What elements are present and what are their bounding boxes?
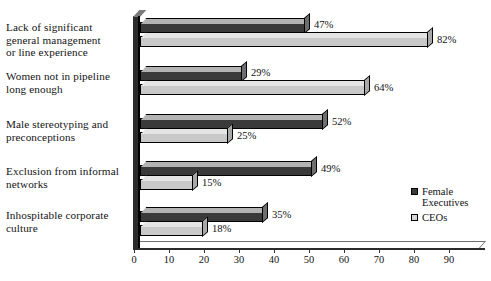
bar-value-ceos-4: 18% (212, 223, 231, 234)
x-tick-label-5: 50 (304, 254, 314, 265)
category-label-3-line-1: networks (6, 178, 130, 191)
legend-swatch-icon-female-executives (411, 188, 418, 195)
x-tick-30 (239, 249, 240, 253)
bar-top-face (141, 161, 316, 167)
x-tick-label-2: 20 (199, 254, 209, 265)
bar-end-face (262, 202, 268, 223)
legend-label-ceos: CEOs (422, 212, 447, 223)
bar-end-face (202, 216, 208, 237)
bar-end-face (304, 13, 310, 34)
bar-end-face (322, 109, 328, 130)
x-tick-90 (449, 249, 450, 253)
x-tick-60 (344, 249, 345, 253)
bar-end-face (192, 170, 198, 191)
category-label-4-line-0: Inhospitable corporate (6, 209, 130, 222)
bar-value-ceos-2: 25% (237, 130, 256, 141)
bar-value-ceos-1: 64% (374, 82, 393, 93)
bar-value-female-executives-3: 49% (321, 163, 340, 174)
x-tick-label-8: 80 (409, 254, 419, 265)
bar-value-ceos-3: 15% (202, 177, 221, 188)
bar-ceos-0 (140, 36, 428, 47)
legend-label-female-executives: Female Executives (422, 186, 487, 209)
category-label-4-line-1: culture (6, 222, 130, 235)
x-tick-50 (309, 249, 310, 253)
bar-ceos-2 (140, 132, 228, 143)
category-label-2-line-1: preconceptions (6, 131, 130, 144)
x-tick-40 (274, 249, 275, 253)
bar-ceos-1 (140, 84, 365, 95)
bar-top-face (141, 18, 309, 24)
bar-value-female-executives-0: 47% (314, 19, 333, 30)
bar-top-face (141, 80, 369, 86)
bar-top-face (141, 128, 232, 134)
value-axis-floor-back (140, 241, 485, 242)
bar-top-face (141, 32, 432, 38)
category-label-2: Male stereotyping and preconceptions (6, 118, 130, 143)
bar-end-face (227, 123, 233, 144)
legend-item-female-executives: Female Executives (411, 186, 487, 209)
legend-swatch-icon-ceos (411, 214, 418, 221)
bar-end-face (364, 75, 370, 96)
category-label-3-line-0: Exclusion from informal (6, 165, 130, 178)
legend: Female Executives CEOs (411, 186, 487, 226)
bar-chart: Lack of significant general management o… (0, 0, 491, 281)
category-label-0: Lack of significant general management o… (6, 21, 130, 59)
bar-end-face (311, 156, 317, 177)
x-tick-10 (169, 249, 170, 253)
category-label-1-line-1: long enough (6, 83, 130, 96)
x-tick-20 (204, 249, 205, 253)
bar-value-ceos-0: 82% (437, 34, 456, 45)
category-label-0-line-0: Lack of significant (6, 21, 130, 34)
category-label-0-line-1: general management (6, 34, 130, 47)
bar-end-face (427, 27, 433, 48)
bar-top-face (141, 221, 207, 227)
x-tick-label-0: 0 (131, 254, 136, 265)
bar-ceos-4 (140, 225, 203, 236)
bar-ceos-3 (140, 179, 193, 190)
bar-top-face (141, 207, 267, 213)
category-label-2-line-0: Male stereotyping and (6, 118, 130, 131)
bar-value-female-executives-4: 35% (272, 209, 291, 220)
category-label-3: Exclusion from informal networks (6, 165, 130, 190)
bar-value-female-executives-1: 29% (251, 67, 270, 78)
category-label-1: Women not in pipeline long enough (6, 70, 130, 95)
x-tick-label-7: 70 (374, 254, 384, 265)
x-tick-0 (134, 249, 135, 253)
x-tick-label-9: 90 (444, 254, 454, 265)
bar-value-female-executives-2: 52% (332, 116, 351, 127)
category-label-0-line-2: or line experience (6, 46, 130, 59)
bar-end-face (241, 61, 247, 82)
x-tick-label-1: 10 (164, 254, 174, 265)
x-tick-label-3: 30 (234, 254, 244, 265)
x-tick-label-4: 40 (269, 254, 279, 265)
x-tick-label-6: 60 (339, 254, 349, 265)
category-label-1-line-0: Women not in pipeline (6, 70, 130, 83)
bar-top-face (141, 66, 246, 72)
legend-item-ceos: CEOs (411, 212, 487, 223)
category-label-4: Inhospitable corporate culture (6, 209, 130, 234)
x-tick-70 (379, 249, 380, 253)
x-tick-80 (414, 249, 415, 253)
bar-top-face (141, 114, 327, 120)
bar-top-face (141, 175, 197, 181)
